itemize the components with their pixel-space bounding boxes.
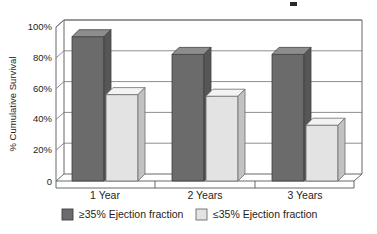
bar-front-face [172,54,204,181]
bar-high-ef-3-years[interactable] [272,47,311,181]
bar-low-ef-1-year[interactable] [106,88,145,181]
bar-front-face [272,54,304,181]
wall-tick-80 [56,51,64,58]
bar-group-3-years [272,47,345,181]
legend-label-high-ef: ≥35% Ejection fraction [79,208,184,220]
bar-group-2-years [172,47,245,181]
floor-right-edge [354,174,362,181]
bar-chart-svg: 100% 80% 60% 40% 20% 0 % Cumulative Surv… [0,0,377,234]
wall-tick-40 [56,112,64,119]
bar-front-face [206,96,238,181]
y-tick-label: 0 [47,176,52,187]
y-tick-label: 40% [33,113,53,124]
bar-side-face [238,89,245,181]
bar-low-ef-3-years[interactable] [306,118,345,181]
bar-front-face [72,37,104,181]
y-axis-title: % Cumulative Survival [7,56,18,151]
x-axis [56,181,354,188]
wall-tick-20 [56,143,64,150]
chart-container: 100% 80% 60% 40% 20% 0 % Cumulative Surv… [0,0,377,234]
wall-bottom-edge [56,174,64,181]
x-category-label: 2 Years [187,189,222,201]
bar-high-ef-1-year[interactable] [72,30,111,181]
bar-low-ef-2-years[interactable] [206,89,245,181]
y-tick-label: 80% [33,52,53,63]
y-tick-label: 20% [33,144,53,155]
x-axis-categories: 1 Year 2 Years 3 Years [90,189,322,201]
y-tick-label: 60% [33,83,53,94]
bar-group-1-year [72,30,145,181]
bar-high-ef-2-years[interactable] [172,47,211,181]
legend-swatch-high-ef [62,209,73,220]
chart-legend: ≥35% Ejection fraction ≤35% Ejection fra… [62,208,318,220]
y-tick-label: 100% [28,21,53,32]
x-category-label: 3 Years [287,189,322,201]
wall-tick-100 [56,20,64,27]
bar-side-face [338,118,345,181]
x-category-label: 1 Year [90,189,120,201]
bar-front-face [106,95,138,181]
legend-label-low-ef: ≤35% Ejection fraction [213,208,318,220]
y-axis-ticks: 100% 80% 60% 40% 20% 0 [28,21,53,187]
legend-swatch-low-ef [196,209,207,220]
bar-side-face [138,88,145,181]
legend-item-high-ef[interactable]: ≥35% Ejection fraction [62,208,184,220]
bar-front-face [306,125,338,181]
legend-item-low-ef[interactable]: ≤35% Ejection fraction [196,208,318,220]
wall-tick-60 [56,82,64,89]
